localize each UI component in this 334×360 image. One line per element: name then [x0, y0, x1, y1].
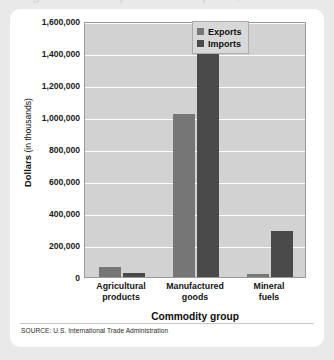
source-divider [20, 323, 314, 324]
chart-legend: ExportsImports [192, 21, 249, 54]
x-axis-title: Commodity group [84, 311, 306, 322]
legend-swatch-exports [197, 28, 204, 35]
cropped-chart-title: Agricultural Exports and Imports, 2011 [0, 0, 334, 7]
chart-card: 0200,000400,000600,000800,0001,000,0001,… [10, 9, 324, 347]
bar-imports [271, 231, 293, 277]
plot-area [84, 22, 306, 278]
x-axis-tick-line: Mineral [224, 281, 314, 292]
y-axis-title-light: (in thousands) [23, 98, 33, 152]
legend-swatch-imports [197, 40, 204, 47]
x-axis-tick-labels: AgriculturalproductsManufacturedgoodsMin… [84, 281, 306, 311]
legend-label: Exports [208, 27, 242, 37]
bar-imports [123, 273, 145, 277]
bar-exports [173, 114, 195, 277]
bar-imports [197, 28, 219, 277]
bar-exports [99, 267, 121, 277]
x-axis-tick-line: fuels [224, 292, 314, 303]
bar-group [159, 23, 233, 277]
y-axis-tick-label: 0 [18, 273, 80, 283]
y-axis-tick-label: 1,600,000 [18, 17, 80, 27]
legend-entry: Imports [197, 38, 242, 49]
chart-title-text: Agricultural Exports and Imports, 2011 [22, 0, 273, 3]
y-axis-title: Dollars (in thousands) [22, 43, 33, 243]
x-axis-tick-label: Mineralfuels [224, 281, 314, 302]
bar-exports [247, 274, 269, 277]
legend-label: Imports [208, 39, 241, 49]
source-note: SOURCE: U.S. International Trade Adminis… [21, 327, 168, 334]
y-axis-tick-label: 200,000 [18, 241, 80, 251]
y-axis-title-strong: Dollars [22, 155, 33, 187]
plot-wrapper [84, 22, 306, 278]
bar-group [85, 23, 159, 277]
bar-group [233, 23, 307, 277]
legend-entry: Exports [197, 26, 242, 37]
